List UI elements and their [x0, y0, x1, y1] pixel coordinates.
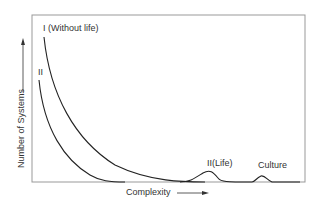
plot-frame	[32, 15, 305, 182]
y-axis-label: Number of Systems	[17, 89, 26, 168]
x-arrowhead-icon	[202, 191, 209, 195]
curve-i	[44, 37, 205, 182]
curve-ii	[39, 80, 125, 182]
y-arrowhead-icon	[21, 38, 25, 45]
culture-bump-label: Culture	[258, 161, 287, 170]
bumps-life-culture	[180, 171, 300, 182]
x-axis-label: Complexity	[126, 188, 171, 197]
life-bump-label: II(Life)	[207, 159, 233, 168]
curve-i-label: I (Without life)	[43, 24, 99, 33]
curve-ii-label: II	[38, 68, 43, 77]
